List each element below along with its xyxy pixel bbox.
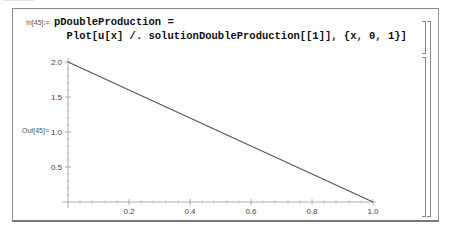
x-tick-label: 0.2 <box>123 207 135 216</box>
x-tick-label: 0.6 <box>245 207 257 216</box>
x-tick-label: 1.0 <box>367 207 379 216</box>
y-tick-label: 0.5 <box>51 163 63 172</box>
plot-line <box>68 62 373 202</box>
x-tick-label: 0.4 <box>184 207 196 216</box>
y-tick-label: 1.5 <box>51 93 63 102</box>
y-tick-label: 2.0 <box>51 58 63 67</box>
plot-graphic: 2.0 1.5 1.0 0.5 0.2 0.4 0.6 0.8 1.0 <box>0 0 450 234</box>
x-tick-label: 0.8 <box>306 207 318 216</box>
y-tick-label: 1.0 <box>51 128 63 137</box>
